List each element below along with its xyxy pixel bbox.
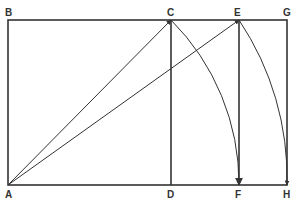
label-b: B — [5, 8, 12, 18]
diagonal-ac — [8, 20, 171, 185]
label-e: E — [234, 8, 241, 18]
label-h: H — [283, 190, 290, 200]
label-d: D — [167, 190, 174, 200]
arc-eh — [239, 20, 287, 185]
label-a: A — [5, 190, 12, 200]
label-c: C — [167, 8, 174, 18]
label-g: G — [283, 8, 291, 18]
label-f: F — [235, 190, 241, 200]
diagram-canvas — [0, 0, 294, 204]
diagonal-ae — [8, 20, 239, 185]
outer-rectangle — [8, 20, 287, 185]
